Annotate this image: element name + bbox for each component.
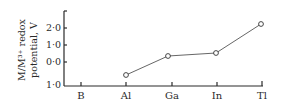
x-tick-label-in: In — [212, 90, 223, 101]
y-tick-label: 1·0 — [46, 79, 61, 90]
x-tick-labels: B Al Ga In Tl — [77, 90, 267, 101]
y-axis — [64, 11, 67, 86]
y-tick-label: 1·0 — [46, 39, 61, 50]
x-tick-label-al: Al — [120, 90, 131, 101]
x-tick-label-ga: Ga — [165, 90, 179, 101]
series-line — [126, 24, 261, 75]
y-axis-label-line1: M/M³⁺ redox — [16, 18, 27, 80]
x-axis — [64, 81, 263, 86]
y-tick-labels: 2·0 1·0 0·0 1·0 — [46, 22, 61, 90]
data-point-al — [124, 73, 129, 78]
chart: M/M³⁺ redox potential, V 2·0 1·0 0·0 1·0… — [0, 0, 281, 108]
data-point-tl — [259, 22, 264, 27]
y-axis-label-line2: potential, V — [28, 22, 39, 78]
y-tick-label: 2·0 — [46, 22, 61, 33]
x-tick-label-tl: Tl — [257, 90, 267, 101]
data-point-ga — [166, 54, 171, 59]
y-tick-label: 0·0 — [46, 56, 61, 67]
series-markers — [124, 22, 264, 78]
x-tick-label-b: B — [77, 90, 84, 101]
data-point-in — [214, 51, 219, 56]
